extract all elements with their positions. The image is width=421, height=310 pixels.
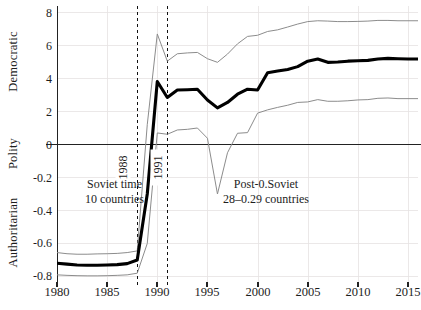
x-tick-1995: 1995: [184, 285, 230, 300]
x-tick-1980: 1980: [34, 285, 80, 300]
x-axis-tick-labels: 1980 1985 1990 1995 2000 2005 2010 2015: [0, 285, 421, 307]
data-series-group: [57, 20, 418, 275]
y-axis-tick-labels: 8 6 4 2 0 -0.2 -0.4 -0.6 -0.8: [22, 0, 52, 310]
polity-time-series-chart: Democratic Polity Authoritarian 8 6 4 2 …: [0, 0, 421, 310]
plot-area: [0, 0, 421, 310]
y-tick-neg08: -0.8: [26, 270, 52, 282]
soviet-era-note-line1: Soviet time: [62, 177, 167, 192]
mean-polity-line: [57, 58, 418, 265]
y-axis-label-polity: Polity: [6, 126, 21, 182]
x-tick-2010: 2010: [335, 285, 381, 300]
x-tick-2005: 2005: [285, 285, 331, 300]
post-soviet-note: Post-0.Soviet 28–0.29 countries: [196, 177, 336, 207]
y-tick-6: 6: [26, 40, 52, 52]
upper-confidence-bound-line: [57, 20, 418, 254]
y-tick-neg02: -0.2: [26, 172, 52, 184]
y-tick-0: 0: [26, 139, 52, 151]
y-tick-2: 2: [26, 106, 52, 118]
post-soviet-note-line1: Post-0.Soviet: [196, 177, 336, 192]
soviet-era-note: Soviet time 10 countries: [62, 177, 167, 207]
post-soviet-note-line2: 28–0.29 countries: [196, 192, 336, 207]
y-tick-neg04: -0.4: [26, 205, 52, 217]
gridlines: [57, 6, 418, 287]
x-tick-1985: 1985: [84, 285, 130, 300]
y-tick-4: 4: [26, 73, 52, 85]
x-tick-2000: 2000: [235, 285, 281, 300]
x-tick-1990: 1990: [134, 285, 180, 300]
soviet-era-note-line2: 10 countries: [62, 192, 167, 207]
y-axis-label-democratic: Democratic: [6, 27, 21, 97]
x-tick-2015: 2015: [385, 285, 421, 300]
y-tick-neg06: -0.6: [26, 237, 52, 249]
y-tick-8: 8: [26, 7, 52, 19]
y-axis-label-authoritarian: Authoritarian: [6, 191, 21, 275]
